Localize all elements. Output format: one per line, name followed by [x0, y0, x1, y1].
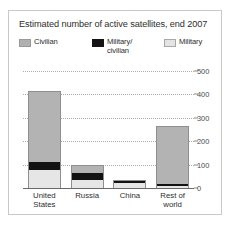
legend-swatch-military-civilian-icon	[92, 39, 104, 47]
y-axis-tick-label: 300	[197, 113, 209, 122]
plot-area: 0100200300400500United StatesRussiaChina…	[23, 71, 194, 188]
legend-swatch-civilian-icon	[19, 39, 31, 47]
bar-segment-civilian	[156, 126, 189, 184]
legend-label-military-civilian: Military/ civilian	[107, 38, 132, 55]
bar-segment-civilian	[71, 165, 104, 173]
legend-label-civilian: Civilian	[34, 38, 58, 47]
y-axis-tick-label: 200	[197, 137, 209, 146]
legend-item-civilian: Civilian	[19, 38, 58, 47]
legend-label-military: Military	[179, 38, 202, 47]
bar-segment-civilian	[28, 91, 61, 162]
bar-russia[interactable]	[71, 165, 104, 188]
chart-title: Estimated number of active satellites, e…	[19, 19, 215, 30]
bar-china[interactable]	[113, 180, 146, 188]
x-axis-label-united-states: United States	[21, 191, 67, 209]
legend-item-military: Military	[164, 38, 202, 47]
chart-card: Estimated number of active satellites, e…	[8, 10, 222, 215]
bar-segment-military-civilian	[28, 162, 61, 170]
y-axis-tick-label: 0	[197, 184, 201, 193]
bar-united-states[interactable]	[28, 91, 61, 188]
bar-segment-military	[156, 186, 189, 188]
x-axis-label-russia: Russia	[64, 191, 110, 200]
bar-segment-military	[28, 170, 61, 188]
bar-segment-military	[71, 180, 104, 188]
y-axis-tick-label: 400	[197, 90, 209, 99]
axis-baseline	[23, 188, 194, 189]
chart-legend: Civilian Military/ civilian Military	[19, 38, 217, 60]
x-axis-label-china: China	[107, 191, 153, 200]
gridline	[23, 71, 194, 72]
x-axis-label-rest-of-world: Rest of world	[150, 191, 196, 209]
legend-item-military-civilian: Military/ civilian	[92, 38, 132, 55]
y-axis-tick-label: 500	[197, 67, 209, 76]
legend-swatch-military-icon	[164, 39, 176, 47]
y-axis-tick-label: 100	[197, 160, 209, 169]
bar-segment-military	[113, 183, 146, 188]
bar-segment-military-civilian	[71, 173, 104, 180]
bar-rest-of-world[interactable]	[156, 126, 189, 188]
chart-screenshot: Estimated number of active satellites, e…	[0, 0, 232, 240]
